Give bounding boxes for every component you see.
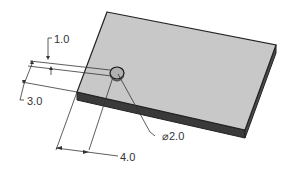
dimension-1-arrow-bottom bbox=[49, 66, 53, 70]
hole bbox=[110, 67, 124, 79]
plate-drawing-svg bbox=[0, 0, 290, 173]
plate-top-face bbox=[77, 12, 276, 130]
dimension-label-3: 3.0 bbox=[27, 95, 42, 107]
dimension-label-1: 1.0 bbox=[54, 33, 69, 45]
dimension-label-diameter: ⌀2.0 bbox=[162, 130, 184, 143]
dimension-3-arrow-top bbox=[30, 60, 34, 64]
dimension-1-arrow-top bbox=[46, 56, 50, 60]
plate-drawing: 1.0 3.0 4.0 ⌀2.0 bbox=[0, 0, 290, 173]
dimension-label-4: 4.0 bbox=[120, 151, 135, 163]
dimension-4-arrow-right bbox=[83, 150, 89, 154]
